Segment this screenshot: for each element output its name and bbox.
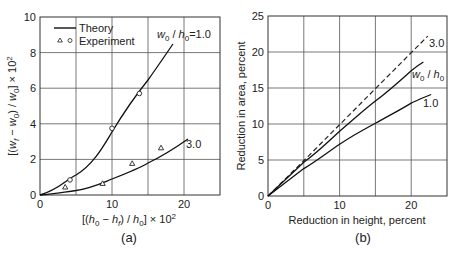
- legend-theory-label: Theory: [79, 22, 114, 34]
- annotation-w0-h0-b: w0 / h0: [412, 68, 445, 83]
- legend-triangle-icon: [58, 38, 63, 42]
- svg-text:5: 5: [258, 154, 264, 166]
- curve-w0-h0-intermediate: [268, 62, 423, 196]
- figure: 0 2 4 6 8 10 0 10 20: [0, 0, 460, 253]
- chart-a: 0 2 4 6 8 10 0 10 20: [5, 11, 220, 245]
- svg-text:10: 10: [24, 11, 36, 23]
- chart-a-y-axis-label: [(wf − w0) / w0] × 102: [5, 56, 21, 156]
- chart-b: 0 5 10 15 20 25 0 10 20 3.0 w0 / h0 1.0 …: [235, 10, 447, 245]
- svg-text:20: 20: [405, 199, 417, 211]
- svg-text:8: 8: [30, 47, 36, 59]
- curve-w0-h0-3-0-dashed: [268, 36, 428, 196]
- chart-a-y-ticks: 0 2 4 6 8 10: [24, 11, 36, 201]
- svg-text:0: 0: [30, 189, 36, 201]
- experiment-triangles: [63, 145, 164, 189]
- svg-text:10: 10: [252, 118, 264, 130]
- panel-label-b: (b): [355, 230, 371, 245]
- curve-w0-h0-1-0: [268, 95, 431, 197]
- chart-b-x-ticks: 0 10 20: [265, 199, 417, 211]
- svg-text:0: 0: [258, 190, 264, 202]
- svg-text:20: 20: [252, 46, 264, 58]
- chart-b-y-ticks: 0 5 10 15 20 25: [252, 10, 264, 202]
- legend-experiment-label: Experiment: [79, 35, 135, 47]
- panel-label-a: (a): [121, 230, 137, 245]
- theory-curve-1-0: [40, 44, 173, 195]
- svg-text:10: 10: [333, 199, 345, 211]
- legend-circle-icon: [68, 39, 72, 43]
- annotation-w0-h0-1-0: w0 / h0=1.0: [157, 28, 211, 43]
- annotation-3-0-b: 3.0: [429, 37, 444, 49]
- annotation-1-0-b: 1.0: [423, 97, 438, 109]
- svg-text:25: 25: [252, 10, 264, 22]
- svg-text:6: 6: [30, 82, 36, 94]
- annotation-3-0-a: 3.0: [186, 138, 201, 150]
- svg-text:0: 0: [37, 198, 43, 210]
- chart-b-x-axis-label: Reduction in height, percent: [289, 214, 426, 226]
- experiment-circles: [68, 91, 142, 182]
- chart-b-grid: [268, 16, 447, 196]
- svg-text:4: 4: [30, 118, 36, 130]
- theory-curve-3-0: [40, 139, 188, 195]
- svg-text:20: 20: [178, 198, 190, 210]
- svg-text:2: 2: [30, 153, 36, 165]
- chart-b-y-axis-label: Reduction in area, percent: [235, 41, 247, 170]
- chart-b-frame: [268, 16, 447, 196]
- chart-a-legend: Theory Experiment: [54, 22, 135, 47]
- svg-text:15: 15: [252, 82, 264, 94]
- svg-text:0: 0: [265, 199, 271, 211]
- chart-a-x-axis-label: [(h0 − hf) / h0] × 102: [82, 212, 176, 228]
- svg-text:10: 10: [106, 198, 118, 210]
- chart-a-x-ticks: 0 10 20: [37, 198, 190, 210]
